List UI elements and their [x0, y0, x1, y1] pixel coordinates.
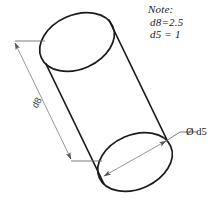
- diameter-dimension-line: [104, 141, 166, 176]
- cylinder-body: [46, 20, 167, 184]
- length-dimension-group: [15, 41, 102, 161]
- diameter-label: Ø d5: [186, 126, 207, 137]
- note-line-d8: d8=2.5: [150, 16, 183, 29]
- technical-drawing-canvas: Note: d8=2.5 d5 = 1 Ø d5 d8: [0, 0, 219, 207]
- note-block: Note: d8=2.5 d5 = 1: [148, 3, 183, 41]
- note-heading: Note:: [148, 3, 183, 16]
- cylinder-top-ellipse: [30, 1, 123, 82]
- diameter-dimension-group: [104, 132, 197, 176]
- cylinder-edge-left: [46, 64, 104, 184]
- note-line-d5: d5 = 1: [150, 28, 183, 41]
- cylinder-bottom-ellipse: [88, 121, 181, 202]
